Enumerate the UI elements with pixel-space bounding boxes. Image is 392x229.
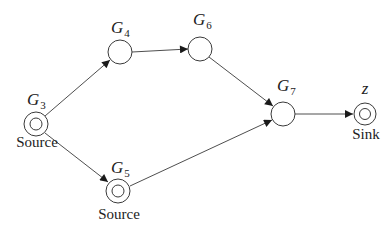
node-g5: G5 Source <box>98 158 140 222</box>
node-z: z Sink <box>352 79 380 142</box>
node-z-label: z <box>361 79 369 98</box>
node-g3-label: G3 <box>27 90 46 111</box>
node-g3-role: Source <box>16 134 58 150</box>
edge-g4-g6 <box>132 49 188 52</box>
node-g7-label: G7 <box>277 76 296 97</box>
node-g6-label: G6 <box>193 10 212 31</box>
flow-diagram: G3 Source G4 G6 G7 z Sink G5 Source <box>0 0 392 229</box>
node-g5-label: G5 <box>111 158 130 179</box>
edge-g5-g7 <box>130 120 272 186</box>
node-g5-role: Source <box>98 206 140 222</box>
node-z-role: Sink <box>352 126 380 142</box>
edge-g3-g4 <box>45 60 110 116</box>
node-g4: G4 <box>108 18 132 64</box>
node-g6: G6 <box>188 10 212 61</box>
node-g4-label: G4 <box>111 18 130 39</box>
node-g3: G3 Source <box>16 90 58 150</box>
node-g7: G7 <box>271 76 296 126</box>
edge-g6-g7 <box>209 57 273 106</box>
